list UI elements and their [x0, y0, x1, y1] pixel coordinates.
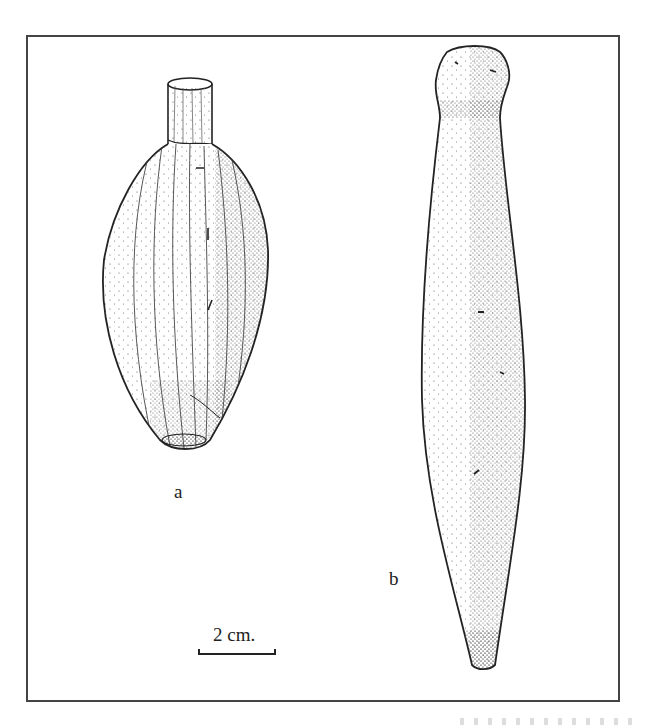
illustration-canvas	[0, 0, 653, 725]
object-b-label: b	[389, 568, 399, 590]
cropped-caption-fragment	[460, 718, 640, 725]
object-a-drawing	[90, 78, 290, 460]
scale-bar	[198, 649, 276, 655]
object-b-drawing	[410, 40, 540, 680]
object-a-label: a	[174, 481, 182, 503]
scale-bar-label: 2 cm.	[213, 624, 255, 646]
